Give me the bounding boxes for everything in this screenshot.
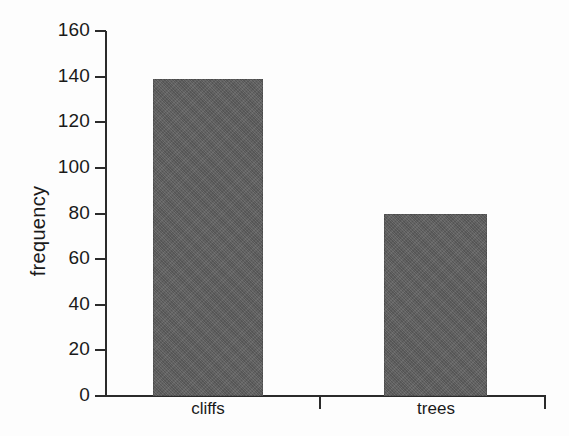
y-axis-tick-160 [95,30,106,32]
y-axis-tick-label-120: 120 [40,111,90,130]
y-axis-tick-label-40: 40 [40,294,90,313]
y-axis-tick-label-140: 140 [40,66,90,85]
plot-area: 160140120100806040200 cliffs trees frequ… [0,0,569,436]
y-axis-tick-0 [95,395,106,397]
y-axis-tick-label-0: 0 [40,385,90,404]
y-axis-tick-100 [95,167,106,169]
y-axis-tick-label-100: 100 [40,157,90,176]
y-axis-tick-label-160: 160 [40,20,90,39]
y-axis-tick-120 [95,121,106,123]
y-axis-tick-label-20: 20 [40,339,90,358]
y-axis-tick-20 [95,349,106,351]
y-axis-tick-140 [95,76,106,78]
x-axis-tick-end [544,396,546,409]
y-axis-tick-label-60: 60 [40,248,90,267]
y-axis-tick-80 [95,213,106,215]
x-axis-label-trees: trees [386,399,486,419]
x-axis-label-cliffs: cliffs [158,399,258,419]
y-axis-tick-60 [95,258,106,260]
bar-chart-figure: 160140120100806040200 cliffs trees frequ… [0,0,569,436]
y-axis-tick-40 [95,304,106,306]
y-axis-tick-label-80: 80 [40,203,90,222]
x-axis-tick-separator [319,396,321,409]
bar-cliffs [153,79,263,396]
bar-trees [384,214,487,397]
